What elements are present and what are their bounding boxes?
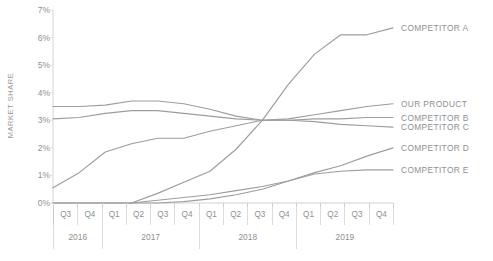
x-axis-tickmark — [53, 203, 54, 207]
legend-label-competitor-b[interactable]: COMPETITOR B — [401, 113, 469, 123]
x-axis-quarter-label: Q2 — [320, 203, 344, 225]
x-axis-tickmark — [247, 203, 248, 207]
y-axis-tick-labels: 0%1%2%3%4%5%6%7% — [22, 0, 50, 210]
x-axis-tickmark — [199, 203, 200, 207]
x-axis-tickmark — [223, 203, 224, 207]
x-axis-quarter-label: Q3 — [53, 203, 77, 225]
series-line-competitor-e — [53, 170, 393, 203]
x-axis-tickmark — [126, 203, 127, 207]
x-axis-quarter-label: Q1 — [296, 203, 320, 225]
x-axis-tickmark — [369, 203, 370, 207]
x-axis-tickmark — [393, 203, 394, 207]
y-tick-label: 2% — [24, 143, 50, 153]
x-axis-quarter-label: Q1 — [199, 203, 223, 225]
x-axis-quarter-label: Q1 — [102, 203, 126, 225]
x-axis-tickmark — [174, 203, 175, 207]
x-axis-year-label: 2018 — [199, 225, 296, 249]
y-axis-title-text: MARKET SHARE — [7, 72, 16, 138]
x-axis-tickmark — [77, 203, 78, 207]
x-axis-quarter-label: Q2 — [223, 203, 247, 225]
y-tick-label: 4% — [24, 88, 50, 98]
y-tick-label: 1% — [24, 170, 50, 180]
y-axis-title: MARKET SHARE — [4, 0, 18, 210]
y-tick-label: 5% — [24, 60, 50, 70]
market-share-line-chart: MARKET SHARE 0%1%2%3%4%5%6%7% COMPETITOR… — [0, 0, 493, 261]
series-line-competitor-c — [53, 120, 393, 188]
series-line-competitor-d — [53, 148, 393, 203]
legend-label-competitor-e[interactable]: COMPETITOR E — [401, 165, 469, 175]
x-axis-tickmark — [150, 203, 151, 207]
x-axis-quarter-label: Q4 — [369, 203, 393, 225]
x-axis-quarter-label: Q4 — [77, 203, 101, 225]
legend-label-competitor-c[interactable]: COMPETITOR C — [401, 122, 469, 132]
y-tick-label: 7% — [24, 5, 50, 15]
series-paths — [53, 28, 393, 203]
plot-svg — [53, 10, 393, 203]
series-line-competitor-a — [131, 28, 393, 203]
x-axis-quarter-label: Q3 — [150, 203, 174, 225]
x-axis-tickmark — [296, 203, 297, 207]
series-line-competitor-b — [53, 111, 393, 121]
x-axis-tickmark — [272, 203, 273, 207]
x-axis-quarter-label: Q3 — [247, 203, 271, 225]
x-axis-quarter-label: Q2 — [126, 203, 150, 225]
plot-area — [53, 10, 393, 203]
x-axis: Q3Q42016Q1Q2Q3Q42017Q1Q2Q3Q42018Q1Q2Q3Q4… — [53, 203, 393, 249]
y-tick-label: 0% — [24, 198, 50, 208]
x-axis-tickmark — [102, 203, 103, 207]
x-axis-quarter-label: Q3 — [344, 203, 368, 225]
y-tick-label: 3% — [24, 115, 50, 125]
legend-label-competitor-a[interactable]: COMPETITOR A — [401, 23, 468, 33]
x-axis-year-label: 2017 — [102, 225, 199, 249]
gridlines — [49, 10, 393, 203]
x-axis-quarter-label: Q4 — [272, 203, 296, 225]
legend-label-our-product[interactable]: OUR PRODUCT — [401, 99, 467, 109]
legend-label-competitor-d[interactable]: COMPETITOR D — [401, 143, 469, 153]
x-axis-tickmark — [344, 203, 345, 207]
x-axis-year-label: 2019 — [296, 225, 393, 249]
x-axis-year-label: 2016 — [53, 225, 102, 249]
x-axis-tickmark — [320, 203, 321, 207]
x-axis-quarter-label: Q4 — [174, 203, 198, 225]
y-tick-label: 6% — [24, 33, 50, 43]
